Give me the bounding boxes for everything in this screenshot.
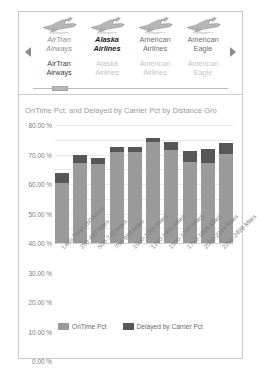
carousel-item-subtitle: American Eagle [180, 60, 226, 77]
carousel-item-subtitle: AirTran Airways [36, 60, 82, 77]
carousel-scrollbar[interactable] [33, 86, 228, 92]
carousel-item-title: Alaska Airlines [84, 36, 130, 53]
carousel-item-subtitle: Alaska Airlines [84, 60, 130, 77]
chevron-right-icon [230, 47, 236, 57]
carousel-prev-button[interactable] [22, 45, 34, 59]
chart-legend-item[interactable]: Delayed by Carrier Pct [123, 323, 203, 330]
chart-legend-swatch [58, 323, 69, 330]
chart-title: OnTime Pct, and Delayed by Carrier Pct b… [25, 106, 251, 115]
carousel-item-american-airlines[interactable]: American Airlines American Airlines [131, 14, 179, 77]
chart-bar-segment-delayed[interactable] [55, 173, 69, 183]
chart-y-tick-label: 0.00 % [32, 358, 52, 365]
chart-bar-segment-ontime[interactable] [55, 183, 69, 243]
chevron-left-icon [25, 47, 31, 57]
report-panel: AirTran Airways AirTran Airways Alaska A… [18, 11, 243, 359]
chart-bar-column[interactable] [55, 125, 69, 243]
chart-y-tick-label: 70.00 % [29, 151, 52, 158]
carousel-track: AirTran Airways AirTran Airways Alaska A… [35, 14, 226, 86]
chart-bar-segment-delayed[interactable] [219, 143, 233, 154]
chart-legend-item[interactable]: OnTime Pct [58, 323, 107, 330]
chart-x-axis-labels: Less Than 250 Miles250-499 Miles500-749 … [55, 245, 233, 307]
carousel-item-alaska-airlines[interactable]: Alaska Airlines Alaska Airlines [83, 14, 131, 77]
airline-carousel[interactable]: AirTran Airways AirTran Airways Alaska A… [19, 12, 242, 94]
chart-y-tick-label: 30.00 % [29, 269, 52, 276]
airplane-icon [39, 16, 79, 35]
scrollbar-thumb[interactable] [52, 86, 68, 91]
airplane-icon [135, 16, 175, 35]
airplane-icon [183, 16, 223, 35]
chart-bar-segment-delayed[interactable] [201, 149, 215, 162]
chart-legend-swatch [123, 323, 134, 330]
carousel-item-title: American Eagle [180, 36, 226, 53]
chart-y-tick-label: 60.00 % [29, 181, 52, 188]
screenshot-root: AirTran Airways AirTran Airways Alaska A… [0, 0, 261, 370]
chart-container: OnTime Pct, and Delayed by Carrier Pct b… [19, 95, 242, 359]
carousel-item-title: AirTran Airways [36, 36, 82, 53]
carousel-item-american-eagle[interactable]: American Eagle American Eagle [179, 14, 227, 77]
chart-bar-segment-delayed[interactable] [183, 151, 197, 162]
carousel-item-subtitle: American Airlines [132, 60, 178, 77]
chart-y-tick-label: 50.00 % [29, 210, 52, 217]
carousel-next-button[interactable] [227, 45, 239, 59]
chart-y-tick-label: 40.00 % [29, 240, 52, 247]
chart-y-tick-label: 20.00 % [29, 299, 52, 306]
chart-legend: OnTime PctDelayed by Carrier Pct [19, 323, 242, 330]
chart-legend-label: OnTime Pct [72, 323, 107, 330]
carousel-item-airtran-airways[interactable]: AirTran Airways AirTran Airways [35, 14, 83, 77]
carousel-item-title: American Airlines [132, 36, 178, 53]
chart-bar-segment-delayed[interactable] [164, 142, 178, 150]
chart-y-tick-label: 80.00 % [29, 122, 52, 129]
chart-legend-label: Delayed by Carrier Pct [137, 323, 203, 330]
chart-bar-segment-delayed[interactable] [73, 155, 87, 163]
airplane-icon [87, 16, 127, 35]
